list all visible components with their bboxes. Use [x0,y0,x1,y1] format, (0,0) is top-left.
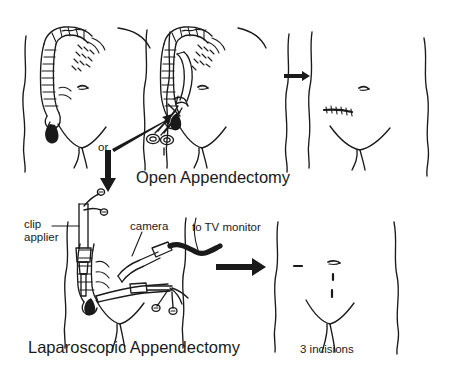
panel-title-laparoscopic-appendectomy: Laparoscopic Appendectomy [28,338,240,356]
label-three-incisions: 3 incisions [300,343,354,356]
branch-label-or: or [98,141,108,154]
label-to-tv-monitor: to TV monitor [192,221,261,234]
panel-lap-surgery [52,189,266,350]
panel-title-open-appendectomy: Open Appendectomy [136,168,290,186]
panel-open-surgery [112,27,310,170]
label-camera: camera [130,220,168,233]
figure-artwork [0,0,452,380]
panel-lap-result [274,222,398,354]
arrow-or-down [100,150,116,192]
panel-open-result [285,32,428,176]
label-clip-applier: clip applier [24,218,59,244]
appendectomy-comparison-figure: Open Appendectomy Laparoscopic Appendect… [0,0,452,380]
panel-anatomy [23,27,150,172]
